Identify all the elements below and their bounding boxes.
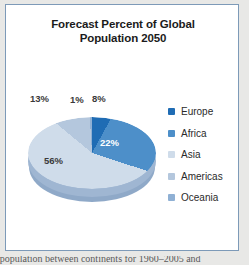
slice-label-europe: 8%	[92, 93, 106, 104]
slice-label-americas: 13%	[30, 93, 49, 104]
legend-label-oceania: Oceania	[181, 192, 218, 203]
pie-chart-plot-area: 13% 1% 8% 22% 56%	[14, 93, 164, 213]
legend-item-asia: Asia	[168, 144, 238, 166]
legend-swatch-icon-asia	[168, 151, 175, 158]
legend-label-africa: Africa	[181, 128, 207, 139]
legend-swatch-icon-europe	[168, 108, 175, 115]
legend-label-europe: Europe	[181, 106, 213, 117]
slice-label-oceania: 1%	[70, 94, 84, 105]
legend-swatch-icon-americas	[168, 173, 175, 180]
chart-figure-frame: Forecast Percent of Global Population 20…	[5, 4, 239, 251]
chart-title: Forecast Percent of Global Population 20…	[20, 18, 226, 45]
pie-slices	[28, 117, 156, 189]
legend-item-oceania: Oceania	[168, 187, 238, 209]
slice-label-asia: 56%	[44, 155, 63, 166]
page-caption-clipped: f population between continents for 1960…	[0, 256, 249, 265]
legend-label-americas: Americas	[181, 171, 223, 182]
legend-item-europe: Europe	[168, 101, 238, 123]
caption-text: f population between continents for 1960…	[0, 256, 201, 264]
legend-swatch-icon-oceania	[168, 194, 175, 201]
legend-item-americas: Americas	[168, 166, 238, 188]
chart-title-line-1: Forecast Percent of Global	[20, 18, 226, 32]
slice-label-africa: 22%	[100, 137, 119, 148]
legend-label-asia: Asia	[181, 149, 200, 160]
chart-legend: Europe Africa Asia Americas Oceania	[168, 101, 238, 209]
legend-item-africa: Africa	[168, 123, 238, 145]
legend-swatch-icon-africa	[168, 130, 175, 137]
chart-title-line-2: Population 2050	[20, 32, 226, 46]
pie-top-face	[28, 117, 156, 189]
